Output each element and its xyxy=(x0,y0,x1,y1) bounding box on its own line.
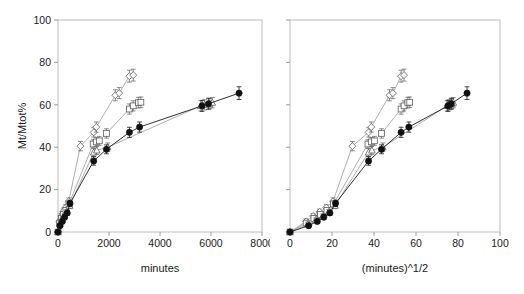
data-point-circle-filled xyxy=(398,129,404,135)
data-point-circle-filled xyxy=(321,214,327,220)
data-point-circle-filled xyxy=(205,101,211,107)
x-tick-label: 0 xyxy=(287,237,293,249)
plot-frame xyxy=(58,20,262,232)
x-axis-title: minutes xyxy=(141,262,180,274)
x-tick-label: 4000 xyxy=(148,237,172,249)
data-point-square-open xyxy=(138,99,144,105)
series-open-square xyxy=(287,97,413,235)
data-point-circle-filled xyxy=(55,229,61,235)
chart-svg-right: 020406080100(minutes)^1/2 xyxy=(258,0,524,294)
x-tick-label: 60 xyxy=(410,237,422,249)
series-filled-circle xyxy=(55,87,242,235)
data-point-square-open xyxy=(379,131,385,137)
x-tick-label: 0 xyxy=(55,237,61,249)
data-point-circle-filled xyxy=(332,200,338,206)
y-tick-label: 60 xyxy=(39,99,51,111)
x-tick-label: 100 xyxy=(491,237,509,249)
chart-panel-right: 020406080100(minutes)^1/2 xyxy=(258,0,524,294)
x-tick-label: 80 xyxy=(452,237,464,249)
data-point-circle-filled xyxy=(67,200,73,206)
data-point-circle-filled xyxy=(137,124,143,130)
data-point-square-open xyxy=(104,131,110,137)
x-tick-label: 40 xyxy=(368,237,380,249)
data-point-square-open xyxy=(96,138,102,144)
data-point-circle-filled xyxy=(103,146,109,152)
series-line xyxy=(290,102,410,232)
data-point-circle-filled xyxy=(327,210,333,216)
data-point-circle-filled xyxy=(287,229,293,235)
y-tick-label: 40 xyxy=(39,141,51,153)
x-tick-label: 6000 xyxy=(199,237,223,249)
data-point-square-open xyxy=(372,138,378,144)
chart-svg-left: 02000400060008000020406080100minutesMt/M… xyxy=(0,0,270,294)
data-point-circle-filled xyxy=(378,146,384,152)
plot-frame xyxy=(290,20,500,232)
data-point-circle-filled xyxy=(365,158,371,164)
chart-panel-left: 02000400060008000020406080100minutesMt/M… xyxy=(0,0,270,294)
figure-container: 02000400060008000020406080100minutesMt/M… xyxy=(0,0,524,294)
data-point-circle-filled xyxy=(236,90,242,96)
series-line xyxy=(290,75,404,232)
series-open-diamond xyxy=(287,69,408,235)
x-tick-label: 20 xyxy=(326,237,338,249)
data-point-circle-filled xyxy=(199,103,205,109)
data-point-circle-filled xyxy=(448,101,454,107)
data-point-square-open xyxy=(407,99,413,105)
series-line xyxy=(58,93,239,232)
y-axis-title: Mt/Mtot% xyxy=(16,103,28,150)
data-point-circle-filled xyxy=(64,210,70,216)
y-tick-label: 20 xyxy=(39,183,51,195)
y-tick-label: 100 xyxy=(33,14,51,26)
x-axis-title: (minutes)^1/2 xyxy=(362,262,428,274)
data-point-circle-filled xyxy=(306,223,312,229)
series-open-triangle xyxy=(55,98,216,235)
series-line xyxy=(58,103,212,232)
data-point-circle-filled xyxy=(314,218,320,224)
data-point-circle-filled xyxy=(406,124,412,130)
y-tick-label: 0 xyxy=(45,226,51,238)
data-point-circle-filled xyxy=(126,129,132,135)
series-filled-circle xyxy=(287,87,470,235)
x-tick-label: 2000 xyxy=(97,237,121,249)
data-point-circle-filled xyxy=(91,158,97,164)
y-tick-label: 80 xyxy=(39,56,51,68)
data-point-circle-filled xyxy=(464,90,470,96)
